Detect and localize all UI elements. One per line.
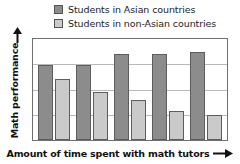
bar-group	[190, 39, 222, 140]
legend-label-non-asian: Students in non-Asian countries	[68, 18, 216, 29]
math-performance-bar-chart: Students in Asian countries Students in …	[0, 0, 240, 164]
x-axis-title-wrap: Amount of time spent with math tutors	[0, 145, 240, 162]
legend-label-asian: Students in Asian countries	[68, 4, 195, 15]
bar-series-container	[33, 39, 227, 140]
bar-asian	[152, 54, 167, 140]
plot-area	[32, 38, 228, 141]
y-axis-title-wrap: Math performance	[2, 38, 28, 142]
bar-non-asian	[207, 115, 222, 140]
bar-non-asian	[55, 79, 70, 140]
bar-group	[38, 39, 70, 140]
legend-swatch-non-asian	[54, 19, 63, 28]
bar-asian	[76, 65, 91, 140]
x-axis-title: Amount of time spent with math tutors	[7, 148, 210, 159]
bar-non-asian	[93, 92, 108, 140]
legend-item-asian: Students in Asian countries	[54, 3, 234, 15]
bar-group	[76, 39, 108, 140]
legend-swatch-asian	[54, 5, 63, 14]
bar-asian	[190, 52, 205, 140]
bar-non-asian	[169, 111, 184, 140]
bar-asian	[38, 65, 53, 140]
bar-group	[114, 39, 146, 140]
legend-item-non-asian: Students in non-Asian countries	[54, 17, 234, 29]
bar-group	[152, 39, 184, 140]
chart-legend: Students in Asian countries Students in …	[54, 3, 234, 29]
y-axis-title: Math performance	[10, 42, 21, 138]
bar-asian	[114, 54, 129, 140]
arrow-right-icon	[213, 148, 233, 159]
bar-non-asian	[131, 100, 146, 140]
